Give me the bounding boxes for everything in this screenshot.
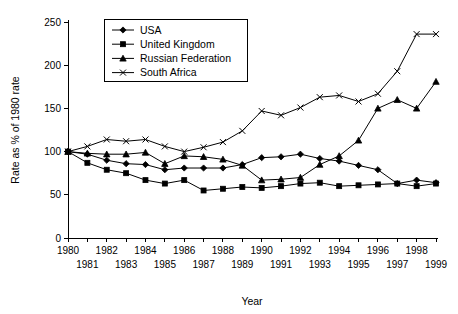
- legend-item-label: Russian Federation: [140, 52, 231, 64]
- data-point-square-marker: [414, 184, 419, 189]
- legend-item-label: USA: [140, 24, 162, 36]
- data-point-square-marker: [124, 171, 129, 176]
- series-russian-federation: [65, 78, 439, 182]
- x-tick-label-bottom: 1999: [425, 259, 448, 270]
- data-point-diamond-marker: [220, 165, 226, 171]
- x-tick-label-top: 1980: [57, 245, 80, 256]
- data-point-cross-marker: [394, 68, 400, 74]
- x-tick-label-bottom: 1987: [192, 259, 215, 270]
- data-point-diamond-marker: [142, 161, 148, 167]
- data-point-cross-marker: [297, 105, 303, 111]
- data-point-diamond-marker: [162, 167, 168, 173]
- data-point-square-marker: [317, 180, 322, 185]
- x-tick-label-bottom: 1989: [231, 259, 254, 270]
- data-point-triangle-marker: [394, 97, 400, 103]
- x-tick-label-bottom: 1983: [115, 259, 138, 270]
- data-point-diamond-marker: [355, 162, 361, 168]
- legend-item-label: South Africa: [140, 66, 197, 78]
- data-point-triangle-marker: [355, 137, 361, 143]
- data-point-triangle-marker: [433, 78, 439, 84]
- data-point-square-marker: [259, 185, 264, 190]
- legend-item-label: United Kingdom: [140, 38, 215, 50]
- data-point-square-marker: [85, 160, 90, 165]
- data-point-diamond-marker: [297, 151, 303, 157]
- x-tick-label-bottom: 1993: [309, 259, 332, 270]
- data-point-cross-marker: [239, 128, 245, 134]
- data-point-square-marker: [434, 181, 439, 186]
- chart-canvas: 050100150200250 198019811982198319841985…: [0, 0, 458, 314]
- data-point-triangle-marker: [375, 105, 381, 111]
- x-tick-label-bottom: 1985: [154, 259, 177, 270]
- x-tick-label-top: 1984: [134, 245, 157, 256]
- x-tick-label-top: 1986: [173, 245, 196, 256]
- y-tick-label: 50: [50, 189, 62, 200]
- data-point-square-marker: [279, 184, 284, 189]
- data-point-triangle-marker: [317, 161, 323, 167]
- data-point-cross-marker: [375, 91, 381, 97]
- legend-swatch-square-marker: [121, 42, 126, 47]
- data-point-square-marker: [395, 181, 400, 186]
- data-point-cross-marker: [162, 143, 168, 149]
- y-tick-label: 100: [44, 146, 61, 157]
- y-tick-label: 250: [44, 17, 61, 28]
- x-tick-label-bottom: 1995: [347, 259, 370, 270]
- x-tick-label-bottom: 1981: [76, 259, 99, 270]
- x-tick-label-top: 1994: [328, 245, 351, 256]
- data-point-cross-marker: [220, 139, 226, 145]
- data-point-square-marker: [201, 188, 206, 193]
- x-tick-label-top: 1988: [212, 245, 235, 256]
- data-point-square-marker: [298, 181, 303, 186]
- series-united-kingdom: [66, 149, 439, 193]
- x-tick-label-top: 1998: [406, 245, 429, 256]
- data-point-square-marker: [104, 167, 109, 172]
- series-path: [68, 152, 436, 191]
- y-axis: 050100150200250: [44, 17, 68, 244]
- data-point-diamond-marker: [414, 177, 420, 183]
- data-point-square-marker: [375, 182, 380, 187]
- data-point-diamond-marker: [200, 165, 206, 171]
- x-tick-label-top: 1996: [367, 245, 390, 256]
- data-point-square-marker: [182, 178, 187, 183]
- data-point-triangle-marker: [162, 160, 168, 166]
- data-point-square-marker: [240, 185, 245, 190]
- data-point-square-marker: [220, 186, 225, 191]
- data-point-diamond-marker: [123, 161, 129, 167]
- data-point-cross-marker: [356, 98, 362, 104]
- y-axis-title: Rate as % of 1980 rate: [9, 76, 21, 184]
- data-point-square-marker: [143, 178, 148, 183]
- data-point-diamond-marker: [104, 157, 110, 163]
- line-chart: 050100150200250 198019811982198319841985…: [0, 0, 458, 314]
- data-point-square-marker: [356, 183, 361, 188]
- data-point-diamond-marker: [259, 155, 265, 161]
- data-point-square-marker: [337, 184, 342, 189]
- data-point-cross-marker: [84, 143, 90, 149]
- x-tick-label-bottom: 1991: [270, 259, 293, 270]
- x-tick-label-bottom: 1997: [386, 259, 409, 270]
- x-tick-label-top: 1992: [289, 245, 312, 256]
- y-tick-label: 150: [44, 103, 61, 114]
- x-axis-title: Year: [241, 295, 263, 307]
- x-tick-label-top: 1982: [96, 245, 119, 256]
- x-axis: 1980198119821983198419851986198719881989…: [57, 238, 448, 270]
- y-tick-label: 200: [44, 60, 61, 71]
- data-point-diamond-marker: [278, 154, 284, 160]
- data-point-square-marker: [162, 181, 167, 186]
- data-point-diamond-marker: [181, 165, 187, 171]
- x-tick-label-top: 1990: [251, 245, 274, 256]
- data-point-diamond-marker: [375, 167, 381, 173]
- chart-legend: USAUnited KingdomRussian FederationSouth…: [104, 19, 247, 81]
- y-tick-label: 0: [55, 233, 61, 244]
